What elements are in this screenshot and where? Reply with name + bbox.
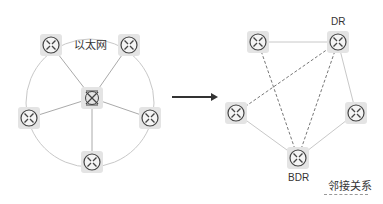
- router-top-left-icon: [247, 31, 269, 53]
- legend-dashed-line: [324, 194, 368, 195]
- router-right-icon: [345, 102, 367, 124]
- hub-icon: [81, 87, 103, 109]
- diagram-canvas: [0, 0, 383, 204]
- arrow-head-icon: [211, 93, 218, 101]
- ethernet-label: 以太网: [74, 36, 107, 52]
- legend-label: 邻接关系: [328, 177, 372, 193]
- dr-label: DR: [331, 16, 345, 27]
- router-top-right: [118, 34, 140, 56]
- router-left: [18, 107, 40, 129]
- router-bottom: [81, 151, 103, 173]
- router-right: [139, 107, 161, 129]
- router-dr-icon: [327, 31, 349, 53]
- router-top-left: [40, 34, 62, 56]
- router-left-icon: [225, 102, 247, 124]
- router-bdr-icon: [287, 147, 309, 169]
- bdr-label: BDR: [288, 172, 309, 183]
